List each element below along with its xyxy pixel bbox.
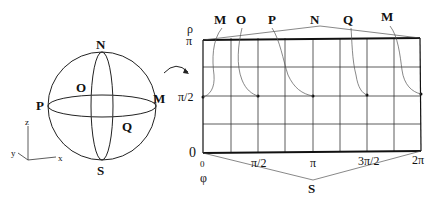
sphere-outline [48,52,156,160]
axis-z: z [25,117,29,127]
y-tick-pi: π [186,34,192,48]
y-tick-pi-half: π/2 [178,90,193,104]
x-axis-symbol: φ [200,171,207,185]
meridian [91,52,113,160]
map-label-M-right: M [381,9,393,24]
axis-y: y [11,148,16,158]
x-tick-2pi: 2π [412,153,424,167]
map-label-M-left: M [214,12,226,27]
x-tick-zero: 0 [200,159,205,169]
y-tick-zero: 0 [189,145,196,160]
map-label-P: P [268,12,276,27]
diagram-canvas: N S M P O Q z y x [0,0,444,205]
map-label-O: O [236,12,246,27]
map-label-Q: Q [343,12,353,27]
equator [48,95,156,117]
x-tick-3pi-half: 3π/2 [358,154,379,168]
label-O: O [76,80,86,95]
x-tick-pi: π [310,156,316,170]
label-M: M [153,91,165,106]
sphere [48,52,156,160]
axis-x: x [58,153,63,163]
x-tick-pi-half: π/2 [251,156,266,170]
label-S: S [97,163,104,178]
label-N: N [96,37,106,52]
map-label-N: N [310,12,320,27]
axes-icon [18,126,56,160]
label-P: P [36,98,44,113]
label-Q: Q [122,119,132,134]
map-label-S: S [308,181,315,196]
